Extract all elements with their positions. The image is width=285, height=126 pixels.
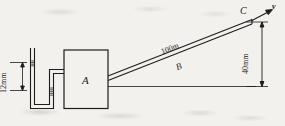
velocity-arrow (251, 10, 273, 21)
outlet-c-label: C (240, 6, 247, 16)
u-tube-manometer (31, 48, 65, 109)
engineering-diagram: A 100m B C v 12mm 40mm (0, 0, 285, 126)
manometer-inner-wall (35, 48, 65, 105)
dimension-12mm (10, 63, 27, 91)
pipe-lower-wall (108, 24, 252, 81)
inclined-pipe-b (108, 20, 252, 81)
manometer-outer-wall (31, 48, 65, 109)
manometer-height-label: 12mm (0, 73, 8, 93)
velocity-label: v (272, 3, 276, 11)
outlet-height-label: 40mm (242, 54, 250, 74)
tank-a-label: A (82, 75, 89, 86)
